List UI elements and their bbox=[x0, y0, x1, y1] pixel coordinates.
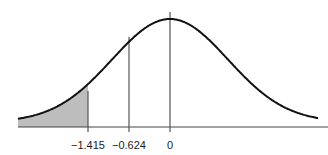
normal-curve bbox=[18, 19, 318, 119]
tick-label-neg-1-415: −1.415 bbox=[71, 139, 105, 151]
shaded-left-tail bbox=[18, 84, 88, 127]
normal-curve-chart bbox=[0, 0, 328, 155]
tick-label-neg-0-624: −0.624 bbox=[112, 139, 146, 151]
tick-label-zero: 0 bbox=[167, 139, 173, 151]
